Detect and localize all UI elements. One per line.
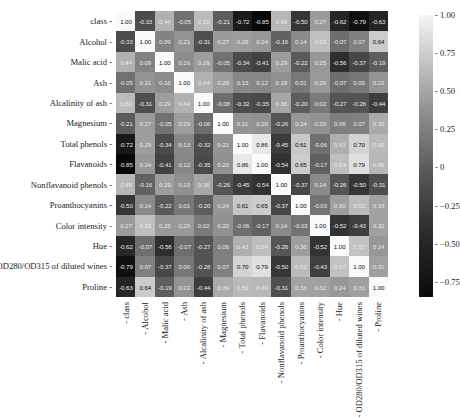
y-axis-label: Proanthocyanins [50, 200, 112, 210]
heatmap-cell: 0.25 [310, 52, 330, 73]
heatmap-cell: 1.00 [252, 154, 272, 175]
heatmap-cell: -0.22 [155, 195, 175, 216]
heatmap-cell: 0.24 [291, 113, 311, 134]
heatmap-cell: 0.27 [310, 11, 330, 32]
heatmap-cell: -0.19 [155, 277, 175, 298]
heatmap-cell: 0.12 [174, 154, 194, 175]
heatmap-cell: -0.05 [116, 72, 136, 93]
heatmap-cell: 0.24 [369, 236, 389, 257]
heatmap-cell: 0.32 [369, 215, 389, 236]
heatmap-cell: 0.13 [233, 72, 253, 93]
heatmap-cell: -0.17 [310, 154, 330, 175]
heatmap-cell: 0.52 [349, 195, 369, 216]
heatmap-cell: 1.00 [271, 174, 291, 195]
heatmap-cell: 1.00 [310, 215, 330, 236]
heatmap-cell: 0.31 [349, 277, 369, 298]
heatmap-cell: 0.21 [174, 31, 194, 52]
colorbar [419, 15, 433, 297]
heatmap-cell: 0.27 [116, 215, 136, 236]
heatmap-cell: -0.85 [116, 154, 136, 175]
heatmap-cell: -0.54 [252, 174, 272, 195]
heatmap-cell: 0.70 [349, 134, 369, 155]
heatmap-cell: 1.00 [213, 113, 233, 134]
heatmap-cell: 0.02 [310, 93, 330, 114]
heatmap-cell: -0.05 [213, 52, 233, 73]
x-axis-label: Hue [334, 302, 344, 321]
x-axis-label: class [121, 302, 131, 324]
colorbar-tick-label: 1.00 [435, 10, 455, 20]
heatmap-cell: -0.26 [271, 236, 291, 257]
x-axis-label: Ash [179, 302, 189, 321]
y-axis-label: Hue [93, 241, 112, 251]
heatmap-cell: 1.00 [349, 256, 369, 277]
heatmap-cell: -0.50 [116, 195, 136, 216]
heatmap-cell: -0.37 [271, 195, 291, 216]
heatmap-cell: -0.37 [291, 174, 311, 195]
x-axis-label: Malic acid [160, 302, 170, 344]
heatmap-cell: 0.09 [135, 52, 155, 73]
heatmap-cell: 0.14 [135, 195, 155, 216]
heatmap-cell: -0.79 [116, 256, 136, 277]
colorbar-tick-label: −0.25 [435, 201, 460, 211]
x-axis-label: OD280/OD315 of diluted wines [354, 302, 364, 418]
heatmap-cell: -0.43 [310, 256, 330, 277]
colorbar-tick-label: −0.75 [435, 277, 460, 287]
heatmap-cell: 0.65 [252, 195, 272, 216]
heatmap-cell: -0.16 [271, 31, 291, 52]
heatmap-cell: 0.79 [349, 154, 369, 175]
heatmap-cell: 0.24 [213, 195, 233, 216]
heatmap-cell: 0.64 [135, 277, 155, 298]
heatmap-cell: 1.00 [135, 31, 155, 52]
heatmap-cell: 0.07 [349, 113, 369, 134]
y-axis-label: Alcalinity of ash [50, 98, 112, 108]
x-axis-label: Alcohol [140, 302, 150, 335]
heatmap-cell: 0.49 [252, 277, 272, 298]
heatmap-cell: -0.31 [135, 93, 155, 114]
heatmap-cell: 0.61 [233, 195, 253, 216]
heatmap-cell: 0.33 [369, 195, 389, 216]
heatmap-cell: 0.55 [310, 31, 330, 52]
heatmap-cell: -0.07 [135, 236, 155, 257]
heatmap-cell: 0.43 [233, 236, 253, 257]
heatmap-cell: 0.30 [291, 236, 311, 257]
heatmap-cell: 0.36 [271, 93, 291, 114]
heatmap-cell: 0.44 [116, 52, 136, 73]
heatmap-cell: 0.27 [135, 113, 155, 134]
heatmap-cell: -0.32 [194, 134, 214, 155]
heatmap-cell: 0.29 [194, 52, 214, 73]
heatmap-cell: 0.02 [194, 215, 214, 236]
heatmap-cell: -0.33 [135, 11, 155, 32]
heatmap-cell: 0.29 [271, 52, 291, 73]
heatmap-cell: 0.27 [213, 31, 233, 52]
heatmap-cell: 0.33 [291, 277, 311, 298]
y-axis-label: Ash [93, 78, 112, 88]
heatmap-cell: 0.20 [213, 154, 233, 175]
heatmap-cell: -0.32 [233, 93, 253, 114]
heatmap-cell: -0.06 [310, 134, 330, 155]
heatmap-cell: -0.35 [252, 93, 272, 114]
heatmap-cell: 0.24 [252, 31, 272, 52]
heatmap-cell: 0.39 [369, 113, 389, 134]
heatmap-cell: -0.50 [291, 11, 311, 32]
heatmap-cell: 0.54 [252, 236, 272, 257]
heatmap-cell: -0.33 [116, 31, 136, 52]
heatmap-cell: 0.21 [213, 134, 233, 155]
heatmap-cell: 0.24 [330, 277, 350, 298]
heatmap-cell: -0.44 [194, 277, 214, 298]
heatmap-cell: 0.13 [174, 134, 194, 155]
heatmap-cell: 0.25 [155, 215, 175, 236]
heatmap-cell: -0.31 [194, 31, 214, 52]
heatmap-cell: -0.56 [155, 236, 175, 257]
heatmap-cell: -0.45 [271, 134, 291, 155]
heatmap-cell: 0.30 [330, 195, 350, 216]
heatmap-cell: -0.62 [330, 11, 350, 32]
heatmap-cell: -0.54 [271, 154, 291, 175]
heatmap-cell: 0.20 [310, 113, 330, 134]
x-axis-label: Nonflavanoid phenols [276, 302, 286, 383]
heatmap-cell: -0.72 [116, 134, 136, 155]
y-axis-label: Magnesium [66, 118, 112, 128]
heatmap-cell: 0.24 [135, 154, 155, 175]
heatmap-cell: -0.62 [116, 236, 136, 257]
heatmap-cell: 0.26 [310, 72, 330, 93]
heatmap-cell: -0.79 [349, 11, 369, 32]
